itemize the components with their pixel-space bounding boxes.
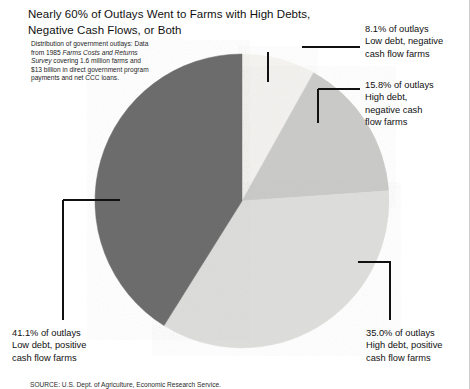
callout-low-debt-positive-pct: 41.1% of outlays	[12, 327, 142, 339]
pie-slices: Low debt, negative cash flow farms — 8.1…	[95, 54, 389, 348]
callout-high-debt-positive-desc-1: High debt, positive	[366, 339, 470, 351]
callout-low-debt-negative: 8.1% of outlays Low debt, negative cash …	[365, 23, 469, 60]
callout-high-debt-positive: 35.0% of outlays High debt, positive cas…	[366, 327, 470, 364]
callout-high-debt-negative-desc-2: negative cash	[365, 104, 465, 116]
callout-high-debt-negative-desc-1: High debt,	[365, 91, 465, 103]
chart-page: Nearly 60% of Outlays Went to Farms with…	[0, 0, 470, 389]
callout-low-debt-negative-desc-2: cash flow farms	[365, 48, 469, 60]
callout-low-debt-positive-desc-2: cash flow farms	[12, 352, 142, 364]
callout-high-debt-negative-desc-3: flow farms	[365, 116, 465, 128]
source-note: SOURCE: U.S. Dept. of Agriculture, Econo…	[30, 381, 460, 389]
callout-low-debt-positive-desc-1: Low debt, positive	[12, 339, 142, 351]
callout-high-debt-positive-desc-2: cash flow farms	[366, 352, 470, 364]
callout-low-debt-negative-desc-1: Low debt, negative	[365, 35, 469, 47]
callout-low-debt-negative-pct: 8.1% of outlays	[365, 23, 469, 35]
callout-low-debt-positive: 41.1% of outlays Low debt, positive cash…	[12, 327, 142, 364]
callout-high-debt-positive-pct: 35.0% of outlays	[366, 327, 470, 339]
callout-high-debt-negative-pct: 15.8% of outlays	[365, 79, 465, 91]
callout-high-debt-negative: 15.8% of outlays High debt, negative cas…	[365, 79, 465, 129]
